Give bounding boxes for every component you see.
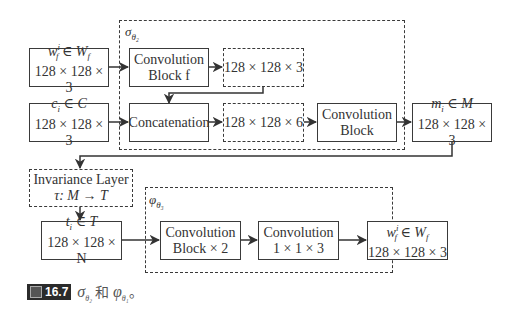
convolution-1x1x3-line2: 1 × 1 × 3 — [273, 241, 324, 257]
output-wf-box: wif ∈ Wf 128 × 128 × 3 — [367, 221, 448, 260]
invariance-layer-title: Invariance Layer — [33, 172, 128, 188]
concatenation-block: Concatenation — [129, 103, 209, 142]
input-wf-shape: 128 × 128 × 3 — [30, 64, 108, 96]
convolution-block: Convolution Block — [317, 103, 397, 142]
convolution-block-x2-line1: Convolution — [165, 225, 235, 241]
feature-128x128x3: 128 × 128 × 3 — [223, 48, 304, 87]
convolution-block-x2: Convolution Block × 2 — [160, 221, 241, 260]
convolution-block-x2-line2: Block × 2 — [173, 241, 228, 257]
ti-box: ti ∈ T 128 × 128 × N — [41, 221, 122, 260]
output-wf-shape: 128 × 128 × 3 — [368, 245, 447, 261]
input-wf-label: wif ∈ Wf — [48, 39, 90, 64]
figure-caption: 16.7 σθ₂ 和 φθ₁。 — [27, 281, 143, 303]
phi-subscript: θ₃ — [156, 200, 164, 210]
convolution-1x1x3-line1: Convolution — [263, 225, 333, 241]
feature-128x128x6: 128 × 128 × 6 — [223, 103, 304, 142]
input-ci-shape: 128 × 128 × 3 — [30, 117, 108, 149]
input-ci-label: ci ∈ C — [51, 96, 86, 117]
ti-label: ti ∈ T — [66, 214, 98, 235]
feature-128x128x3-label: 128 × 128 × 3 — [224, 60, 303, 76]
figure-icon — [30, 286, 42, 298]
phi-group-label: φθ₃ — [149, 192, 164, 210]
figure-number: 16.7 — [45, 285, 68, 299]
convolution-block-line1: Convolution — [322, 107, 392, 123]
input-ci-box: ci ∈ C 128 × 128 × 3 — [29, 103, 109, 142]
output-mi-label: mi ∈ M — [431, 96, 473, 117]
output-mi-shape: 128 × 128 × 3 — [413, 117, 491, 149]
convolution-block-f-line1: Convolution — [134, 52, 204, 68]
invariance-layer: Invariance Layer τ: M → T — [29, 169, 133, 207]
convolution-block-f-line2: Block f — [148, 68, 190, 84]
concatenation-label: Concatenation — [129, 115, 210, 131]
convolution-block-f: Convolution Block f — [129, 48, 209, 87]
feature-128x128x6-label: 128 × 128 × 6 — [224, 115, 303, 131]
output-wf-label: wif ∈ Wf — [387, 220, 429, 245]
invariance-layer-mapping: τ: M → T — [54, 188, 108, 204]
input-wf-box: wif ∈ Wf 128 × 128 × 3 — [29, 48, 109, 87]
convolution-block-line2: Block — [340, 123, 373, 139]
convolution-1x1x3: Convolution 1 × 1 × 3 — [258, 221, 339, 260]
caption-text: σθ₂ 和 φθ₁。 — [77, 281, 142, 303]
figure-number-badge: 16.7 — [27, 284, 71, 300]
output-mi-box: mi ∈ M 128 × 128 × 3 — [412, 103, 492, 142]
sigma-subscript: θ₂ — [131, 32, 139, 42]
ti-shape: 128 × 128 × N — [42, 235, 121, 267]
sigma-group-label: σθ₂ — [125, 24, 139, 42]
